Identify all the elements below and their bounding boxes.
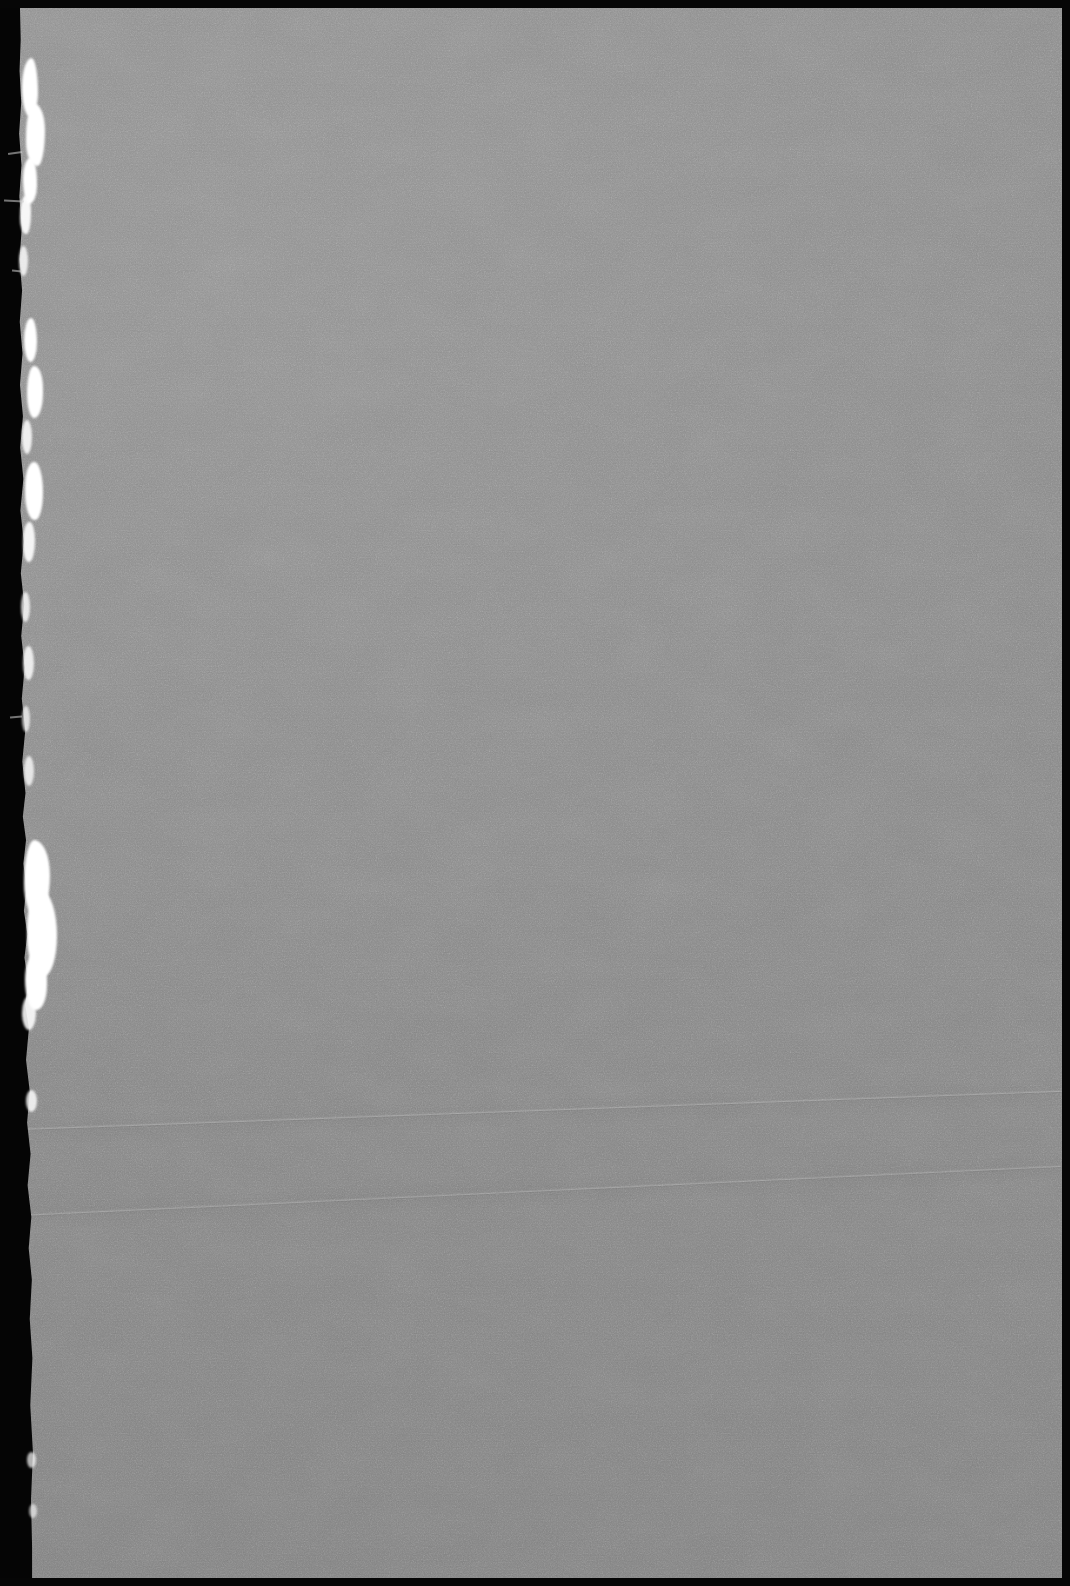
- upper-crease-line: [21, 1090, 1061, 1131]
- paper-illumination: [0, 8, 1062, 1578]
- lower-crease-line: [21, 1165, 1061, 1217]
- lower-crease-shadow: [21, 1157, 1062, 1228]
- paper-mottle-texture: [0, 8, 1062, 1578]
- paper-sheet: [0, 8, 1062, 1578]
- upper-crease-shadow: [21, 1082, 1062, 1142]
- scanned-page-canvas: [0, 0, 1070, 1586]
- scan-banding: [0, 8, 1062, 1578]
- paper-grain-texture: [0, 8, 1062, 1578]
